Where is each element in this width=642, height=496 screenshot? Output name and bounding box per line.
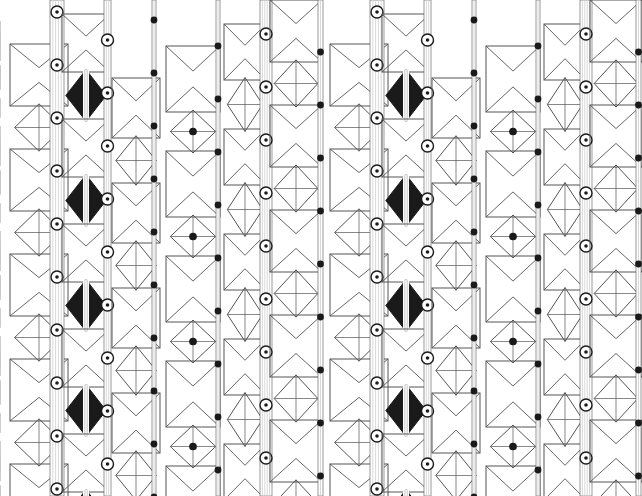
rod-node-dot	[635, 208, 642, 215]
rod-node-dot	[55, 10, 59, 14]
diamond-center-dot	[189, 128, 197, 136]
rod-node-dot	[317, 367, 324, 374]
rod-node-dot	[106, 409, 110, 413]
rod-node-dot	[426, 250, 430, 254]
rod-node-dot	[151, 176, 158, 183]
panel-diagonal-top	[166, 361, 220, 386]
rod-node-dot	[635, 473, 642, 480]
panel-diagonal-top	[62, 14, 110, 36]
rod-node-dot	[426, 38, 430, 42]
rod-node-dot	[584, 191, 588, 195]
panel-diagonal-top	[62, 224, 110, 246]
rod-node-dot	[215, 202, 222, 209]
panel-diagonal-bottom	[166, 87, 220, 112]
panel-diagonal-bottom	[382, 50, 430, 72]
crescent-panel	[0, 315, 322, 377]
panel-diagonal-bottom	[270, 248, 322, 272]
rod-node-dot	[426, 91, 430, 95]
rod-node-dot	[264, 350, 268, 354]
panel-diagonal-top	[486, 361, 540, 386]
panel-diagonal-top	[166, 256, 220, 281]
rod-node-dot	[106, 197, 110, 201]
rod-node-dot	[55, 116, 59, 120]
panel-diagonal-bottom	[590, 248, 642, 272]
panel-diagonal-bottom	[590, 38, 642, 62]
panel-column-5	[0, 24, 266, 496]
rod-node-dot	[215, 308, 222, 315]
rod-node-dot	[55, 434, 59, 438]
panel-diagonal-bottom	[166, 192, 220, 217]
panel-diagonal-bottom	[486, 87, 540, 112]
rod-node-dot	[584, 85, 588, 89]
rod-node-dot	[215, 149, 222, 156]
panel-diagonal-top	[590, 105, 642, 129]
rod-node-dot	[471, 176, 478, 183]
panel-diagonal-top	[270, 420, 322, 444]
rod-node-dot	[55, 487, 59, 491]
panel-diagonal-top	[382, 14, 430, 36]
rod-node-dot	[264, 456, 268, 460]
rod-column-3	[151, 0, 158, 496]
rod-node-dot	[584, 297, 588, 301]
panel-outline	[270, 420, 322, 482]
rod-node-dot	[375, 434, 379, 438]
panel-diagonal-bottom	[270, 143, 322, 167]
rod-node-dot	[55, 381, 59, 385]
rod-node-dot	[55, 222, 59, 226]
rod-node-dot	[535, 308, 542, 315]
panel-diagonal-bottom	[166, 402, 220, 427]
rod-node-dot	[535, 467, 542, 474]
diamond-center-dot	[509, 338, 517, 346]
rod-node-dot	[471, 441, 478, 448]
panel-diagonal-top	[166, 466, 220, 491]
panel-diagonal-top	[382, 224, 430, 246]
panel-diagonal-top	[590, 420, 642, 444]
rod-node-dot	[55, 328, 59, 332]
crescent-panel	[0, 24, 266, 80]
pattern-canvas	[0, 0, 642, 496]
diamond-center-dot	[509, 233, 517, 241]
panel-outline	[486, 151, 540, 217]
rod-node-dot	[55, 275, 59, 279]
panel-diagonal-bottom	[382, 365, 430, 387]
panel-diagonal-bottom	[270, 458, 322, 482]
panel-column-8	[0, 14, 430, 496]
rod-node-dot	[535, 149, 542, 156]
panel-outline	[590, 105, 642, 167]
rod-node-dot	[55, 63, 59, 67]
panel-diagonal-top	[270, 210, 322, 234]
panel-diagonal-bottom	[590, 353, 642, 377]
rod-node-dot	[317, 314, 324, 321]
panel-diagonal-bottom	[62, 470, 110, 492]
rod-node-dot	[426, 356, 430, 360]
rod-node-dot	[635, 314, 642, 321]
rod-node-dot	[635, 261, 642, 268]
rod-node-dot	[264, 32, 268, 36]
diamond-center-dot	[189, 338, 197, 346]
crescent-panel	[0, 0, 322, 62]
rod-node-dot	[106, 38, 110, 42]
rod-node-dot	[584, 244, 588, 248]
rod-node-dot	[317, 155, 324, 162]
rod-node-dot	[317, 473, 324, 480]
crescent-panel	[0, 444, 586, 496]
panel-diagonal-top	[62, 329, 110, 351]
rod-node-dot	[635, 49, 642, 56]
rod-column-6	[317, 0, 324, 496]
rod-node-dot	[151, 70, 158, 77]
rod-node-dot	[535, 255, 542, 262]
rod-node-dot	[471, 70, 478, 77]
panel-diagonal-bottom	[590, 458, 642, 482]
rod-node-dot	[584, 456, 588, 460]
rod-node-dot	[375, 328, 379, 332]
rod-node-dot	[317, 420, 324, 427]
rod-node-dot	[535, 202, 542, 209]
panel-diagonal-bottom	[62, 260, 110, 282]
rod-node-dot	[471, 17, 478, 24]
panel-outline	[590, 420, 642, 482]
rod-node-dot	[317, 102, 324, 109]
rod-node-dot	[584, 350, 588, 354]
rod-node-dot	[151, 123, 158, 130]
rod-node-dot	[264, 138, 268, 142]
rod-node-dot	[215, 43, 222, 50]
